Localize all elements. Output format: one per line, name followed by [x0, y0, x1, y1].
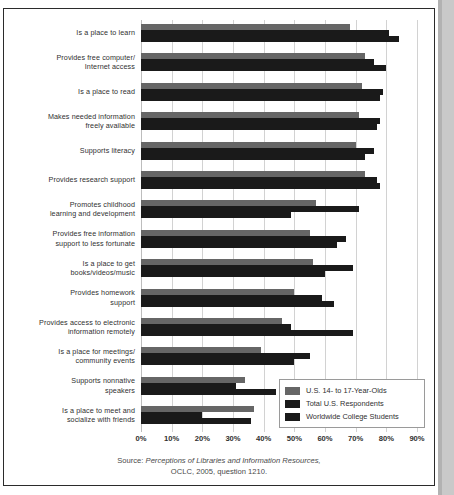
category-label-line: support — [0, 298, 135, 307]
bar — [141, 212, 291, 218]
gridline-40 — [264, 20, 265, 432]
category-label-line: Provides free computer/ — [0, 53, 135, 62]
chart-legend: U.S. 14- to 17-Year-OldsTotal U.S. Respo… — [279, 379, 425, 428]
bar — [141, 271, 325, 277]
gridline-90 — [417, 20, 418, 432]
bar-group — [141, 230, 417, 248]
bar-group — [141, 200, 417, 218]
category-label-line: support to less fortunate — [0, 239, 135, 248]
bar — [141, 301, 334, 307]
x-tick-label-80: 80% — [379, 434, 394, 443]
plot-area — [141, 20, 417, 432]
bar — [141, 154, 365, 160]
bar — [141, 330, 353, 336]
source-detail: OCLC, 2005, question 1210. — [171, 467, 267, 476]
legend-swatch — [285, 387, 300, 395]
x-axis: 0%10%20%30%40%50%60%70%80%90% — [141, 434, 417, 448]
category-label: Makes needed informationfreely available — [0, 112, 135, 131]
category-label: Supports nonnativespeakers — [0, 376, 135, 395]
x-tick-label-40: 40% — [256, 434, 271, 443]
gridline-20 — [202, 20, 203, 432]
bar-group — [141, 318, 417, 336]
category-label: Provides free informationsupport to less… — [0, 229, 135, 248]
bar — [141, 65, 386, 71]
category-label-line: Provides free information — [0, 229, 135, 238]
category-label-line: freely available — [0, 121, 135, 130]
gridline-60 — [325, 20, 326, 432]
category-label-line: Promotes childhood — [0, 200, 135, 209]
x-tick-label-0: 0% — [136, 434, 147, 443]
category-label: Provides free computer/Internet access — [0, 53, 135, 72]
source-title: Perceptions of Libraries and Information… — [146, 456, 321, 465]
x-tick-label-20: 20% — [195, 434, 210, 443]
category-label-line: Is a place to read — [0, 87, 135, 96]
bar-group — [141, 112, 417, 130]
bar — [141, 124, 377, 130]
source-label: Source: — [117, 456, 143, 465]
bar-group — [141, 83, 417, 101]
bar — [141, 389, 276, 395]
legend-label: Total U.S. Respondents — [306, 399, 384, 408]
category-label-line: Provides homework — [0, 288, 135, 297]
page-sheet: Is a place to learnProvides free compute… — [0, 0, 438, 495]
category-label-line: Supports nonnative — [0, 376, 135, 385]
gridline-30 — [233, 20, 234, 432]
bar — [141, 95, 380, 101]
gridline-0 — [141, 20, 142, 432]
category-label: Promotes childhoodlearning and developme… — [0, 200, 135, 219]
legend-swatch — [285, 400, 300, 408]
gridline-80 — [386, 20, 387, 432]
bar-group — [141, 171, 417, 189]
category-label: Is a place to meet andsocialize with fri… — [0, 406, 135, 425]
bar-group — [141, 53, 417, 71]
category-label-line: Is a place to learn — [0, 28, 135, 37]
category-label-line: learning and development — [0, 209, 135, 218]
category-label: Provides access to electronicinformation… — [0, 318, 135, 337]
bar — [141, 36, 399, 42]
x-tick-label-60: 60% — [317, 434, 332, 443]
bar — [141, 418, 251, 424]
bar-group — [141, 24, 417, 42]
category-label-line: Supports literacy — [0, 146, 135, 155]
category-label-line: Is a place to get — [0, 259, 135, 268]
legend-item: Worldwide College Students — [285, 410, 419, 423]
x-tick-label-50: 50% — [287, 434, 302, 443]
category-label: Provides research support — [0, 175, 135, 184]
gridline-70 — [356, 20, 357, 432]
category-label: Is a place to learn — [0, 28, 135, 37]
legend-label: U.S. 14- to 17-Year-Olds — [306, 386, 387, 395]
category-label-line: Makes needed information — [0, 112, 135, 121]
category-label: Provides homeworksupport — [0, 288, 135, 307]
bar-group — [141, 347, 417, 365]
category-label: Is a place to getbooks/videos/music — [0, 259, 135, 278]
bar — [141, 359, 294, 365]
category-label-line: information remotely — [0, 327, 135, 336]
x-tick-label-10: 10% — [164, 434, 179, 443]
bar — [141, 242, 337, 248]
source-note: Source: Perceptions of Libraries and Inf… — [3, 455, 435, 477]
bar-group — [141, 289, 417, 307]
legend-item: Total U.S. Respondents — [285, 397, 419, 410]
category-label-line: Is a place for meetings/ — [0, 347, 135, 356]
category-label-line: Provides access to electronic — [0, 318, 135, 327]
category-label-line: socialize with friends — [0, 415, 135, 424]
category-label: Is a place to read — [0, 87, 135, 96]
legend-label: Worldwide College Students — [306, 412, 399, 421]
category-label-line: Internet access — [0, 62, 135, 71]
legend-item: U.S. 14- to 17-Year-Olds — [285, 384, 419, 397]
gridline-10 — [172, 20, 173, 432]
category-label-line: speakers — [0, 386, 135, 395]
category-label-line: Is a place to meet and — [0, 406, 135, 415]
x-tick-label-70: 70% — [348, 434, 363, 443]
x-tick-label-90: 90% — [409, 434, 424, 443]
bar-group — [141, 259, 417, 277]
bar-chart: Is a place to learnProvides free compute… — [3, 8, 435, 486]
legend-swatch — [285, 413, 300, 421]
bar — [141, 183, 380, 189]
page-gutter-shadow — [438, 0, 442, 495]
gridline-50 — [294, 20, 295, 432]
category-label: Is a place for meetings/community events — [0, 347, 135, 366]
category-label-line: Provides research support — [0, 175, 135, 184]
category-label-line: books/videos/music — [0, 268, 135, 277]
bar-group — [141, 142, 417, 160]
